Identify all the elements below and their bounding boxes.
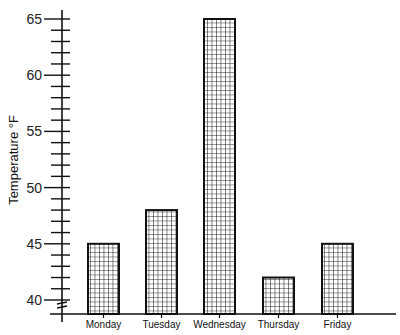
- bar-friday: [322, 244, 353, 314]
- x-tick-label: Tuesday: [143, 319, 181, 330]
- y-tick-label: 45: [26, 236, 42, 252]
- x-axis: MondayTuesdayWednesdayThursdayFriday: [50, 314, 396, 330]
- y-tick-label: 60: [26, 67, 42, 83]
- x-tick-label: Friday: [324, 319, 352, 330]
- x-tick-label: Thursday: [258, 319, 300, 330]
- y-tick-label: 65: [26, 11, 42, 27]
- bar-thursday: [263, 278, 294, 314]
- y-axis-label: Temperature °F: [6, 115, 21, 205]
- bar-tuesday: [146, 210, 177, 314]
- bar-monday: [88, 244, 119, 314]
- bar-chart: 404550556065 MondayTuesdayWednesdayThurs…: [0, 0, 400, 335]
- x-tick-label: Wednesday: [193, 319, 246, 330]
- y-tick-label: 55: [26, 123, 42, 139]
- y-tick-label: 50: [26, 180, 42, 196]
- y-axis: 404550556065: [26, 10, 70, 322]
- bars: [88, 19, 353, 314]
- x-tick-label: Monday: [86, 319, 122, 330]
- bar-wednesday: [204, 19, 235, 314]
- y-tick-label: 40: [26, 292, 42, 308]
